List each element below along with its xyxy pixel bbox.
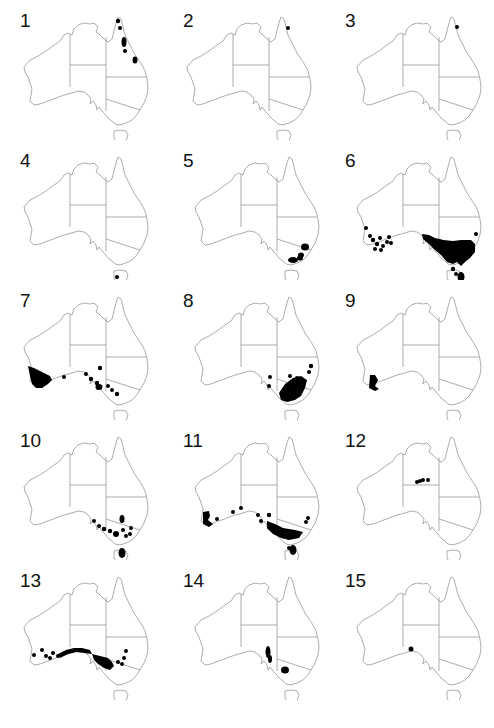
panel-label: 6: [345, 150, 356, 172]
panel-label: 14: [183, 570, 204, 592]
map-panel-4: 4: [0, 140, 162, 280]
panel-label: 7: [20, 290, 31, 312]
panel-label: 15: [345, 570, 366, 592]
map-panel-2: 2: [163, 0, 325, 140]
map-panel-12: 12: [325, 420, 487, 560]
panel-label: 13: [20, 570, 41, 592]
panel-label: 8: [183, 290, 194, 312]
panel-label: 1: [20, 10, 31, 32]
panel-label: 10: [20, 430, 41, 452]
panel-label: 3: [345, 10, 356, 32]
map-panel-11: 11: [163, 420, 325, 560]
figure-caption: [20, 708, 480, 728]
figure-grid: 1 2 3 4 5: [0, 0, 494, 700]
map-panel-5: 5: [163, 140, 325, 280]
panel-label: 5: [183, 150, 194, 172]
map-panel-6: 6: [325, 140, 487, 280]
map-panel-1: 1: [0, 0, 162, 140]
panel-label: 4: [20, 150, 31, 172]
panel-label: 9: [345, 290, 356, 312]
map-panel-13: 13: [0, 560, 162, 700]
map-panel-14: 14: [163, 560, 325, 700]
panel-label: 2: [183, 10, 194, 32]
map-panel-8: 8: [163, 280, 325, 420]
map-panel-9: 9: [325, 280, 487, 420]
panel-label: 12: [345, 430, 366, 452]
map-panel-15: 15: [325, 560, 487, 700]
map-panel-10: 10: [0, 420, 162, 560]
map-panel-7: 7: [0, 280, 162, 420]
panel-label: 11: [183, 430, 203, 452]
map-panel-3: 3: [325, 0, 487, 140]
